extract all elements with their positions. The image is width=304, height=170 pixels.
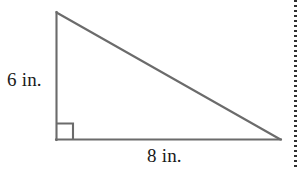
vertical-leg-label: 6 in. bbox=[7, 70, 42, 89]
horizontal-leg-label: 8 in. bbox=[147, 146, 182, 165]
page-edge-dotted-rule bbox=[294, 0, 297, 170]
triangle-hypotenuse bbox=[57, 13, 281, 140]
right-angle-marker-icon bbox=[57, 124, 74, 141]
figure-canvas: 6 in. 8 in. bbox=[0, 0, 304, 170]
